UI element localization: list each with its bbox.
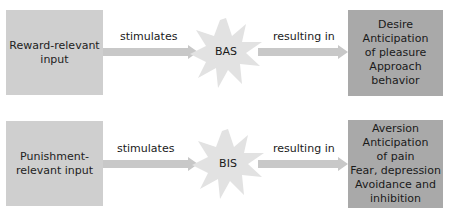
bas-output-line: Anticipation [363,32,429,46]
stimulates-label-bis: stimulates [117,142,174,155]
resulting-label-bas: resulting in [273,30,335,43]
punishment-input-line: relevant input [16,164,93,178]
bas-output-line: Desire [363,18,429,32]
bis-label: BIS [208,157,248,170]
resulting-arrow-bis [258,157,348,171]
reward-input-line: input [9,53,99,67]
bas-output-line: of pleasure [363,46,429,60]
bas-label: BAS [206,45,246,58]
bis-output-box: Aversion Anticipation of pain Fear, depr… [348,120,443,208]
bis-output-line: Fear, depression [350,164,441,178]
bas-output-line: behavior [363,74,429,88]
bis-output-line: of pain [350,150,441,164]
bis-output-line: Aversion [350,122,441,136]
punishment-input-box: Punishment- relevant input [6,121,103,206]
stimulates-arrow-bas [103,45,198,59]
bas-output-line: Approach [363,60,429,74]
resulting-label-bis: resulting in [273,142,335,155]
stimulates-label-bas: stimulates [120,30,177,43]
stimulates-arrow-bis [103,157,198,171]
resulting-arrow-bas [258,45,348,59]
bis-output-line: Avoidance and [350,178,441,192]
punishment-input-line: Punishment- [16,150,93,164]
bis-output-line: inhibition [350,192,441,206]
bis-output-line: Anticipation [350,136,441,150]
bas-output-box: Desire Anticipation of pleasure Approach… [348,10,443,96]
reward-input-box: Reward-relevant input [6,10,103,95]
reward-input-line: Reward-relevant [9,39,99,53]
